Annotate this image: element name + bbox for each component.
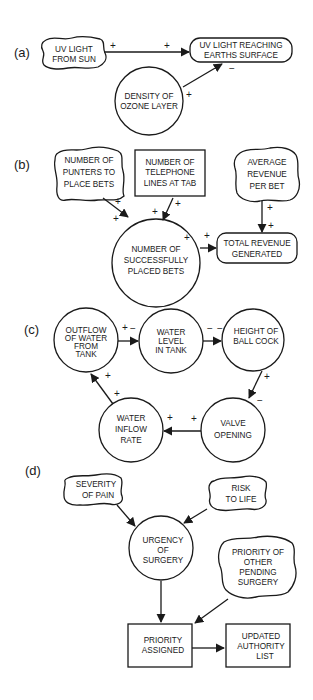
causal-loop-diagrams: (a) UV LIGHTFROM SUN UV LIGHT REACHINGEA… <box>0 0 313 700</box>
sign: + <box>105 370 111 381</box>
panel-b: (b) NUMBER OFPUNTERS TOPLACE BETS NUMBER… <box>14 147 299 307</box>
svg-text:PRIORITY OFOTHERPENDINGSURGERY: PRIORITY OFOTHERPENDINGSURGERY <box>232 548 284 587</box>
sign: + <box>164 40 170 51</box>
sign: + <box>186 89 192 100</box>
sign: − <box>229 63 235 74</box>
circle-shape <box>115 67 183 135</box>
cloud-shape <box>64 474 123 505</box>
sign: + <box>191 413 197 424</box>
node-punters: NUMBER OFPUNTERS TOPLACE BETS <box>55 147 124 200</box>
node-updated-authority-list: UPDATEDAUTHORITYLIST <box>226 624 290 667</box>
sign: − <box>217 323 223 334</box>
node-average-revenue: AVERAGEREVENUEPER BET <box>234 147 299 201</box>
sign: − <box>207 323 213 334</box>
node-water-level: WATERLEVELIN TANK <box>139 309 203 373</box>
node-urgency-of-surgery: URGENCYOFSURGERY <box>129 516 193 580</box>
svg-text:UV LIGHT REACHINGEARTHS SURFAC: UV LIGHT REACHINGEARTHS SURFACE <box>199 41 282 60</box>
sign: + <box>175 198 181 209</box>
arrow-risk-to-urgency <box>184 509 207 523</box>
node-uv-light-from-sun: UV LIGHTFROM SUN <box>42 36 106 69</box>
panel-d: (d) SEVERITYOF PAIN RISKTO LIFE URGENCYO… <box>25 463 296 667</box>
sign: + <box>267 202 273 213</box>
node-total-revenue: TOTAL REVENUEGENERATED <box>217 233 297 263</box>
svg-text:UV LIGHTFROM SUN: UV LIGHTFROM SUN <box>52 45 96 64</box>
sign: + <box>122 322 128 333</box>
circle-shape <box>201 398 265 462</box>
panel-d-label: (d) <box>25 463 41 478</box>
node-risk-to-life: RISKTO LIFE <box>209 476 267 510</box>
sign: − <box>257 395 263 406</box>
sign: − <box>130 323 136 334</box>
arrow-ozone-to-earth <box>183 64 222 87</box>
sign: + <box>114 388 120 399</box>
sign: + <box>204 230 210 241</box>
panel-a-label: (a) <box>14 45 30 60</box>
panel-c: (c) OUTFLOWOF WATERFROMTANK WATERLEVELIN… <box>24 308 284 462</box>
node-telephone-lines: NUMBER OFTELEPHONELINES AT TAB <box>135 150 205 196</box>
arrow-severity-to-urgency <box>117 505 135 526</box>
svg-text:NUMBER OFPUNTERS TOPLACE BETS: NUMBER OFPUNTERS TOPLACE BETS <box>63 156 115 189</box>
node-outflow: OUTFLOWOF WATERFROMTANK <box>54 308 118 372</box>
node-priority-assigned: PRIORITYASSIGNED <box>128 624 192 667</box>
arrow-other-to-assigned <box>195 599 228 623</box>
panel-a: (a) UV LIGHTFROM SUN UV LIGHT REACHINGEA… <box>14 36 292 135</box>
node-valve-opening: VALVEOPENING <box>201 398 265 462</box>
sign: + <box>167 412 173 423</box>
node-ball-cock: HEIGHT OFBALL COCK <box>222 309 284 371</box>
node-uv-light-reaching-earth: UV LIGHT REACHINGEARTHS SURFACE <box>190 38 292 62</box>
sign: + <box>110 40 116 51</box>
panel-b-label: (b) <box>14 157 30 172</box>
sign: + <box>264 371 270 382</box>
node-severity-of-pain: SEVERITYOF PAIN <box>64 474 123 505</box>
sign: + <box>184 232 190 243</box>
sign: + <box>268 220 274 231</box>
svg-text:NUMBER OFSUCCESSFULLYPLACED BE: NUMBER OFSUCCESSFULLYPLACED BETS <box>124 245 189 276</box>
svg-text:NUMBER OFTELEPHONELINES AT TAB: NUMBER OFTELEPHONELINES AT TAB <box>144 158 197 188</box>
svg-text:DENSITY OFOZONE LAYER: DENSITY OFOZONE LAYER <box>120 92 178 111</box>
sign: + <box>152 206 158 217</box>
node-density-of-ozone: DENSITY OFOZONE LAYER <box>115 67 183 135</box>
node-water-inflow: WATERINFLOWRATE <box>99 398 163 462</box>
svg-text:AVERAGEREVENUEPER BET: AVERAGEREVENUEPER BET <box>247 158 287 191</box>
cloud-shape <box>209 476 267 510</box>
arrow-phones-to-placed <box>163 198 173 220</box>
node-priority-other-surgery: PRIORITY OFOTHERPENDINGSURGERY <box>219 536 296 598</box>
svg-text:HEIGHT OFBALL COCK: HEIGHT OFBALL COCK <box>233 327 279 346</box>
panel-c-label: (c) <box>24 322 39 337</box>
sign: + <box>115 196 121 207</box>
svg-text:WATERLEVELIN TANK: WATERLEVELIN TANK <box>155 328 187 355</box>
svg-text:PRIORITYASSIGNED: PRIORITYASSIGNED <box>142 636 184 655</box>
arrow-ballcock-to-valve <box>249 371 262 398</box>
sign: + <box>113 213 119 224</box>
